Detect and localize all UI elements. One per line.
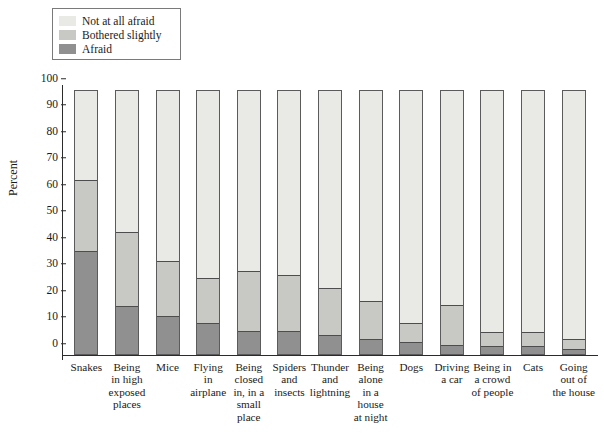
stacked-bar[interactable] — [480, 90, 504, 355]
bar-segment-bothered-slightly[interactable] — [360, 301, 382, 339]
bar-group[interactable] — [115, 90, 139, 355]
stacked-bar[interactable] — [74, 90, 98, 355]
bar-segment-bothered-slightly[interactable] — [481, 332, 503, 346]
stacked-bar[interactable] — [521, 90, 545, 355]
bar-group[interactable] — [277, 90, 301, 355]
legend-label-bothered-slightly: Bothered slightly — [82, 29, 162, 42]
bar-segment-bothered-slightly[interactable] — [116, 232, 138, 306]
x-axis-label-line: Going — [546, 361, 602, 373]
y-axis-tick-label: 60 — [36, 179, 58, 191]
y-axis-tick-label: 20 — [36, 285, 58, 297]
stacked-bar[interactable] — [440, 90, 464, 355]
y-axis-tick-label: 10 — [36, 311, 58, 323]
x-axis-label-line: in a — [343, 386, 399, 398]
bar-segment-bothered-slightly[interactable] — [522, 332, 544, 346]
y-axis-tick-label: 0 — [36, 338, 58, 350]
bar-segment-not-at-all-afraid[interactable] — [319, 91, 341, 288]
bar-segment-bothered-slightly[interactable] — [197, 278, 219, 323]
y-axis-tick: 50 — [36, 205, 66, 217]
bar-segment-not-at-all-afraid[interactable] — [278, 91, 300, 275]
chart-legend: Not at all afraid Bothered slightly Afra… — [52, 8, 181, 60]
bar-segment-bothered-slightly[interactable] — [319, 288, 341, 335]
bar-segment-not-at-all-afraid[interactable] — [157, 91, 179, 261]
legend-swatch-bothered-slightly — [59, 30, 76, 40]
y-axis-tick: 60 — [36, 179, 66, 191]
y-axis-tick-label: 50 — [36, 205, 58, 217]
x-axis-label-line: in high — [99, 373, 155, 385]
bar-segment-bothered-slightly[interactable] — [157, 261, 179, 315]
legend-item-bothered-slightly: Bothered slightly — [59, 28, 174, 42]
stacked-bar[interactable] — [562, 90, 586, 355]
y-axis-tick: 90 — [36, 99, 66, 111]
legend-label-afraid: Afraid — [82, 43, 112, 56]
y-axis-tick-label: 90 — [36, 99, 58, 111]
stacked-bar[interactable] — [359, 90, 383, 355]
bar-segment-afraid[interactable] — [360, 339, 382, 354]
bar-segment-not-at-all-afraid[interactable] — [522, 91, 544, 332]
stacked-bar[interactable] — [196, 90, 220, 355]
x-axis-label-line: out of — [546, 373, 602, 385]
bar-segment-afraid[interactable] — [441, 345, 463, 354]
bar-segment-not-at-all-afraid[interactable] — [116, 91, 138, 232]
bar-series-container — [66, 90, 594, 355]
x-axis-label-line: the house — [546, 386, 602, 398]
bar-segment-afraid[interactable] — [116, 306, 138, 354]
bar-segment-bothered-slightly[interactable] — [75, 180, 97, 250]
bar-segment-afraid[interactable] — [157, 316, 179, 354]
bar-group[interactable] — [359, 90, 383, 355]
bar-segment-bothered-slightly[interactable] — [238, 271, 260, 331]
bar-group[interactable] — [399, 90, 423, 355]
bar-segment-afraid[interactable] — [75, 251, 97, 354]
bar-segment-bothered-slightly[interactable] — [441, 305, 463, 345]
y-axis-tick-mark — [61, 78, 66, 79]
bar-segment-afraid[interactable] — [238, 331, 260, 354]
bar-group[interactable] — [480, 90, 504, 355]
bar-segment-not-at-all-afraid[interactable] — [400, 91, 422, 323]
bar-segment-not-at-all-afraid[interactable] — [563, 91, 585, 339]
stacked-bar[interactable] — [237, 90, 261, 355]
bar-segment-afraid[interactable] — [481, 346, 503, 354]
bar-segment-not-at-all-afraid[interactable] — [481, 91, 503, 332]
bar-segment-afraid[interactable] — [278, 331, 300, 354]
bar-segment-afraid[interactable] — [197, 323, 219, 354]
bar-segment-not-at-all-afraid[interactable] — [360, 91, 382, 301]
bar-segment-afraid[interactable] — [400, 342, 422, 354]
bar-group[interactable] — [237, 90, 261, 355]
bar-segment-bothered-slightly[interactable] — [563, 339, 585, 349]
y-axis-tick: 0 — [36, 338, 66, 350]
bar-segment-not-at-all-afraid[interactable] — [75, 91, 97, 180]
x-axis-label-line: exposed — [99, 386, 155, 398]
y-axis-tick: 30 — [36, 258, 66, 270]
stacked-bar[interactable] — [318, 90, 342, 355]
bar-group[interactable] — [156, 90, 180, 355]
stacked-bar[interactable] — [399, 90, 423, 355]
legend-swatch-not-at-all-afraid — [59, 16, 76, 26]
y-axis-tick: 40 — [36, 232, 66, 244]
x-axis-labels: SnakesBeingin highexposedplacesMiceFlyin… — [66, 361, 594, 433]
stacked-bar[interactable] — [277, 90, 301, 355]
bar-group[interactable] — [562, 90, 586, 355]
y-axis-title: Percent — [6, 160, 21, 196]
bar-group[interactable] — [196, 90, 220, 355]
x-axis-label-line: of people — [464, 386, 520, 398]
bar-segment-not-at-all-afraid[interactable] — [197, 91, 219, 278]
bar-segment-not-at-all-afraid[interactable] — [441, 91, 463, 305]
bar-segment-bothered-slightly[interactable] — [400, 323, 422, 342]
bar-group[interactable] — [318, 90, 342, 355]
bar-group[interactable] — [74, 90, 98, 355]
bar-group[interactable] — [521, 90, 545, 355]
bar-group[interactable] — [440, 90, 464, 355]
stacked-bar[interactable] — [156, 90, 180, 355]
y-axis-tick: 70 — [36, 152, 66, 164]
y-axis-tick: 20 — [36, 285, 66, 297]
x-axis-label-line: place — [221, 411, 277, 423]
y-axis-tick: 100 — [36, 73, 66, 85]
bar-segment-afraid[interactable] — [319, 335, 341, 354]
x-axis-label-line: house — [343, 398, 399, 410]
bar-segment-afraid[interactable] — [522, 346, 544, 354]
stacked-bar[interactable] — [115, 90, 139, 355]
bar-segment-bothered-slightly[interactable] — [278, 275, 300, 332]
x-axis-label-line: alone — [343, 373, 399, 385]
bar-segment-afraid[interactable] — [563, 349, 585, 354]
bar-segment-not-at-all-afraid[interactable] — [238, 91, 260, 271]
